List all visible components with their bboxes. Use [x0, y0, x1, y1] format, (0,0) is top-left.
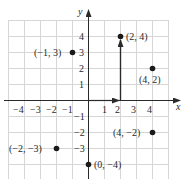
- svg-text:−1: −1: [62, 104, 73, 115]
- y-tick-labels: 4 3 2 1 −1 −2 −3: [74, 31, 85, 154]
- coordinate-plane: x y −4 −3 −2 −1 1 2 3 4 4 3 2 1 −1 −2 −3…: [0, 0, 189, 179]
- svg-text:(−1, 3): (−1, 3): [34, 47, 61, 59]
- svg-text:(2, 4): (2, 4): [126, 31, 148, 43]
- svg-text:−1: −1: [74, 111, 85, 122]
- svg-text:−3: −3: [30, 104, 41, 115]
- svg-text:(0, −4): (0, −4): [94, 159, 121, 171]
- svg-text:2: 2: [79, 63, 84, 74]
- point-4-neg2: [150, 130, 156, 136]
- svg-text:2: 2: [115, 104, 120, 115]
- point-4-2: [150, 66, 156, 72]
- svg-text:(4, 2): (4, 2): [139, 74, 161, 86]
- svg-text:−4: −4: [13, 104, 24, 115]
- svg-text:4: 4: [147, 104, 152, 115]
- svg-text:−3: −3: [74, 143, 85, 154]
- point-0-neg4: [86, 162, 92, 168]
- point-neg2-neg3: [54, 146, 60, 152]
- svg-text:1: 1: [102, 104, 107, 115]
- svg-text:(−2, −3): (−2, −3): [9, 143, 42, 155]
- svg-text:4: 4: [79, 31, 84, 42]
- x-axis-label: x: [175, 101, 181, 112]
- svg-text:(4, −2): (4, −2): [113, 127, 140, 139]
- svg-text:3: 3: [79, 47, 84, 58]
- point-neg1-3: [70, 50, 76, 56]
- svg-text:1: 1: [79, 79, 84, 90]
- y-axis-label: y: [77, 6, 83, 17]
- svg-text:3: 3: [131, 104, 136, 115]
- svg-text:−2: −2: [46, 104, 57, 115]
- svg-text:−2: −2: [74, 127, 85, 138]
- point-2-4: [118, 34, 124, 40]
